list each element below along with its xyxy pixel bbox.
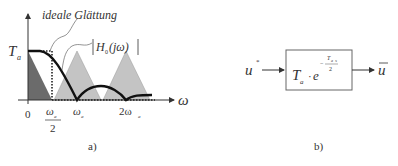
svg-text:a: a [81, 114, 84, 119]
svg-text:e: e [313, 68, 319, 83]
caption-a: a) [88, 140, 97, 153]
svg-text:ω: ω [73, 105, 81, 117]
output-signal-label: u [378, 62, 388, 78]
image-spectrum-triangle-1 [54, 51, 101, 100]
tick-2-omega-a: 2ω a [119, 105, 141, 119]
y-label-Ta: T a [8, 43, 21, 62]
svg-text:u: u [378, 62, 386, 78]
svg-text:s: s [335, 58, 337, 63]
svg-text:a: a [331, 58, 333, 63]
caption-b: b) [314, 140, 324, 153]
svg-text:a: a [300, 78, 304, 86]
baseband-spectrum-triangle [28, 51, 52, 100]
leader-ideal-smoothing [50, 18, 78, 51]
input-signal-label: u * [245, 58, 260, 78]
tick-omega-a: ω a [73, 105, 84, 119]
svg-text:u: u [245, 62, 253, 78]
svg-text:ω: ω [46, 105, 54, 117]
panel-b-block-diagram: u * T a · e − T a s 2 u b) [245, 50, 388, 153]
x-axis-label-omega: ω [178, 92, 189, 108]
figure: ideale Glättung H 0 (jω) T a ω 0 ω a 2 ω… [0, 0, 398, 166]
svg-text:2: 2 [50, 122, 56, 134]
svg-text:2: 2 [329, 66, 332, 72]
tick-half-omega-a: ω a 2 [45, 105, 61, 134]
svg-text:0: 0 [105, 49, 108, 55]
svg-text:*: * [256, 58, 260, 66]
svg-text:2ω: 2ω [119, 105, 132, 117]
panel-a-spectrum-plot: ideale Glättung H 0 (jω) T a ω 0 ω a 2 ω… [8, 8, 189, 153]
tick-zero: 0 [25, 108, 31, 120]
annotation-ideal-smoothing: ideale Glättung [42, 8, 117, 22]
svg-text:a: a [17, 53, 21, 62]
image-spectrum-triangle-2 [103, 51, 150, 100]
svg-text:a: a [138, 114, 141, 119]
svg-text:·: · [308, 70, 312, 82]
svg-text:a: a [54, 114, 57, 119]
annotation-h0: H 0 (jω) [93, 39, 138, 55]
svg-text:(jω): (jω) [109, 40, 129, 54]
